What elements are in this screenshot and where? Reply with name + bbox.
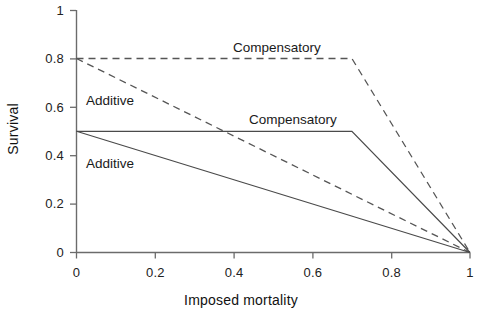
x-tick-label-1: 1	[450, 265, 482, 280]
y-axis-ticks	[70, 11, 76, 253]
y-tick-label-0: 0	[28, 245, 64, 260]
x-axis-ticks	[77, 253, 471, 259]
x-tick-label-0.2: 0.2	[135, 265, 175, 280]
y-tick-label-0.4: 0.4	[28, 148, 64, 163]
x-tick-label-0.6: 0.6	[293, 265, 333, 280]
annotation-compensatory-upper: Compensatory	[231, 40, 323, 55]
x-tick-label-0.8: 0.8	[372, 265, 412, 280]
survival-vs-imposed-mortality-chart: 1 0.8 0.6 0.4 0.2 0 0 0.2 0.4 0.6 0.8 1 …	[0, 0, 482, 321]
y-axis-title: Survival	[5, 89, 21, 169]
x-axis-title: Imposed mortality	[0, 292, 482, 308]
annotation-additive-lower: Additive	[84, 156, 136, 171]
y-tick-label-0.2: 0.2	[28, 196, 64, 211]
y-tick-label-1: 1	[28, 3, 64, 18]
x-tick-label-0.4: 0.4	[214, 265, 254, 280]
annotation-additive-upper: Additive	[84, 93, 136, 108]
x-tick-label-0: 0	[57, 265, 97, 280]
y-tick-label-0.6: 0.6	[28, 100, 64, 115]
y-tick-label-0.8: 0.8	[28, 51, 64, 66]
annotation-compensatory-lower: Compensatory	[247, 112, 339, 127]
